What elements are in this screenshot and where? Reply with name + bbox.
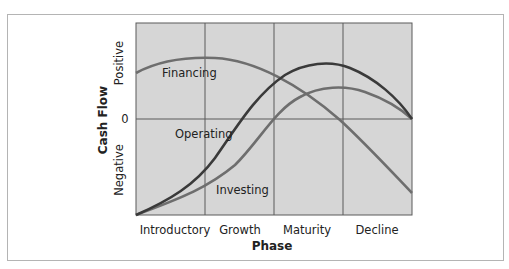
financing-label: Financing	[162, 66, 217, 80]
y-tick-negative: Negative	[112, 144, 126, 196]
operating-label: Operating	[175, 127, 233, 141]
y-axis-title: Cash Flow	[96, 86, 110, 154]
y-tick-positive: Positive	[112, 41, 126, 85]
x-tick-introductory: Introductory	[140, 223, 211, 237]
cash-flow-chart: Financing Operating Investing Positive 0…	[0, 0, 509, 269]
y-tick-zero: 0	[121, 112, 128, 126]
x-tick-growth: Growth	[219, 223, 261, 237]
x-axis-title: Phase	[252, 239, 293, 253]
investing-label: Investing	[216, 183, 269, 197]
x-tick-maturity: Maturity	[283, 223, 331, 237]
x-tick-decline: Decline	[355, 223, 398, 237]
